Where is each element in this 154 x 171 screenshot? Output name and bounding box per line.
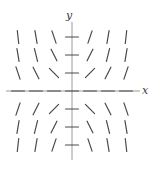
- slope-segment: [85, 68, 94, 77]
- slope-segment: [16, 67, 20, 79]
- slope-segment: [49, 68, 58, 77]
- x-axis-label: x: [142, 85, 148, 96]
- slope-segment: [107, 31, 109, 44]
- slope-segment: [106, 121, 109, 134]
- slope-segment: [125, 121, 127, 134]
- slope-segment: [124, 103, 128, 115]
- slope-segment: [17, 49, 19, 62]
- slope-field-plot: y x: [0, 0, 154, 171]
- slope-segment: [125, 31, 126, 44]
- y-axis-label: y: [66, 10, 72, 21]
- slope-segment: [107, 139, 109, 152]
- slope-segment: [124, 67, 128, 79]
- slope-segment: [35, 139, 37, 152]
- slope-segment: [16, 103, 20, 115]
- slope-segment: [17, 121, 19, 134]
- slope-segment: [87, 49, 93, 61]
- slope-segment: [125, 139, 126, 152]
- slope-segment: [88, 139, 92, 151]
- slope-segment: [17, 139, 18, 152]
- slope-segment: [51, 49, 57, 61]
- slope-segment: [51, 121, 57, 133]
- slope-segment: [49, 104, 58, 113]
- slope-segment: [52, 139, 56, 151]
- slope-segment: [105, 103, 111, 115]
- slope-segment: [17, 31, 18, 44]
- slope-segment: [106, 49, 109, 62]
- slope-segment: [85, 104, 94, 113]
- slope-segment: [35, 31, 37, 44]
- slope-segment: [33, 103, 39, 115]
- slope-segment: [52, 31, 56, 43]
- slope-segment: [87, 121, 93, 133]
- slope-field-canvas: [0, 0, 154, 171]
- slope-segment: [105, 67, 111, 79]
- slope-segment: [125, 49, 127, 62]
- slope-segment: [33, 67, 39, 79]
- slope-segment: [34, 49, 37, 62]
- slope-segment: [88, 31, 92, 43]
- slope-segment: [34, 121, 37, 134]
